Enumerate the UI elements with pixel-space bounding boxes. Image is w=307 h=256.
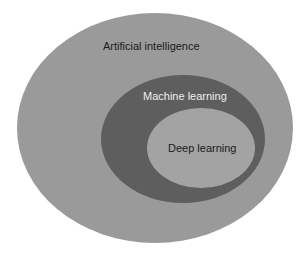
label-artificial-intelligence: Artificial intelligence	[103, 40, 200, 52]
label-deep-learning: Deep learning	[168, 142, 237, 154]
venn-diagram: Artificial intelligence Machine learning…	[0, 0, 307, 256]
label-machine-learning: Machine learning	[143, 90, 227, 102]
nested-ellipses	[0, 0, 307, 256]
